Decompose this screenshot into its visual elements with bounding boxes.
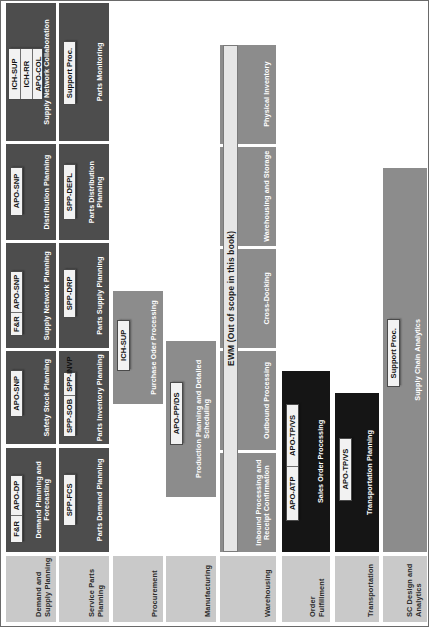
solution-tag[interactable]: APO-PP/DS: [171, 383, 182, 444]
row-process-boxes: Parts Demand PlanningSPP-FCSParts Invent…: [59, 3, 109, 552]
process-solution-map: Demand and Supply PlanningDemand Plannin…: [0, 0, 429, 627]
solution-tag-group: SPP-DEPL: [63, 164, 76, 220]
solution-tag[interactable]: APO-DP: [11, 476, 22, 515]
solution-tag[interactable]: ICH-RR: [21, 49, 33, 98]
solution-tag-group: SPP-FCS: [63, 474, 76, 525]
row-process-boxes: Demand Planning and ForecastingF&RAPO-DP…: [6, 3, 56, 552]
solution-tag-group: SPP-DRP: [63, 269, 76, 318]
solution-tag[interactable]: Support Proc.: [388, 320, 399, 386]
solution-tag[interactable]: SPP-DRP: [64, 270, 75, 317]
row-process-boxes: Transportation PlanningAPO-TP/VS: [335, 3, 379, 552]
process-row: Demand and Supply PlanningDemand Plannin…: [6, 1, 56, 626]
solution-tag[interactable]: SPP-DEPL: [64, 165, 75, 219]
solution-tag[interactable]: APO-COL: [33, 49, 44, 98]
row-process-boxes: Supply Chain AnalyticsSupport Proc.: [383, 3, 427, 552]
row-process-boxes: Purchase Oder ProcessingICH-SUP: [113, 3, 163, 552]
rotated-diagram-frame: Demand and Supply PlanningDemand Plannin…: [0, 0, 429, 627]
solution-tag[interactable]: SPP-SOB: [64, 395, 75, 436]
row-grid: Demand and Supply PlanningDemand Plannin…: [1, 1, 428, 626]
process-row: Order FulfillmentSales Order ProcessingA…: [282, 1, 330, 626]
row-label: Warehousing: [220, 556, 276, 622]
row-label: Service Parts Planning: [59, 556, 109, 622]
solution-tag-group: SPP-SOBSPP-INVP: [63, 372, 76, 437]
process-row: ManufacturingProduction Planning and Det…: [166, 1, 216, 626]
solution-tag-group: APO-TP/VS: [339, 438, 352, 501]
solution-tag-group: Support Proc.: [387, 319, 400, 387]
solution-tag-group: APO-SNP: [10, 370, 23, 417]
row-process-boxes: Production Planning and Detailed Schedul…: [166, 3, 216, 552]
solution-tag[interactable]: APO-SNP: [11, 371, 22, 416]
row-label: Transportation: [335, 556, 379, 622]
solution-tag[interactable]: APO-TP/VS: [340, 439, 351, 500]
solution-tag[interactable]: APO-SNP: [11, 168, 22, 215]
process-row: WarehousingInbound Processing and Receip…: [220, 1, 276, 626]
solution-tag[interactable]: ICH-SUP: [118, 321, 129, 370]
solution-tag[interactable]: Support Proc.: [64, 42, 75, 103]
solution-tag-group: APO-SNP: [10, 167, 23, 216]
row-label: Order Fulfillment: [282, 556, 330, 622]
solution-tag[interactable]: F&R: [11, 515, 22, 541]
process-row: Service Parts PlanningParts Demand Plann…: [59, 1, 109, 626]
row-label: SC Design and Analytics: [383, 556, 427, 622]
process-row: TransportationTransportation PlanningAPO…: [335, 1, 379, 626]
row-label: Manufacturing: [166, 556, 216, 622]
solution-tag[interactable]: APO-SNP: [11, 272, 22, 313]
solution-tag-group: APO-ATPAPO-TP/VS: [286, 404, 299, 521]
row-process-boxes: Sales Order ProcessingAPO-ATPAPO-TP/VS: [282, 3, 330, 552]
solution-tag[interactable]: APO-TP/VS: [287, 405, 298, 466]
solution-tag-group: ICH-SUPICH-RRAPO-COL: [8, 48, 43, 99]
out-of-scope-band: EWM (Out of scope in this book): [223, 45, 238, 552]
row-label: Procurement: [113, 556, 163, 622]
solution-tag[interactable]: APO-ATP: [287, 466, 298, 520]
solution-tag-group: APO-PP/DS: [170, 382, 183, 445]
solution-tag[interactable]: SPP-FCS: [64, 475, 75, 524]
process-row: SC Design and AnalyticsSupply Chain Anal…: [383, 1, 427, 626]
solution-tag[interactable]: ICH-SUP: [9, 49, 21, 98]
solution-tag-group: ICH-SUP: [117, 320, 130, 371]
process-row: ProcurementPurchase Oder ProcessingICH-S…: [113, 1, 163, 626]
row-process-boxes: Inbound Processing and Receipt Confirmat…: [220, 3, 276, 552]
solution-tag-group: Support Proc.: [63, 41, 76, 104]
solution-tag[interactable]: SPP-INVP: [64, 353, 75, 394]
solution-tag-group: F&RAPO-DP: [10, 475, 23, 543]
solution-tag[interactable]: F&R: [11, 312, 22, 335]
solution-tag-group: F&RAPO-SNP: [10, 271, 23, 336]
row-label: Demand and Supply Planning: [6, 556, 56, 622]
